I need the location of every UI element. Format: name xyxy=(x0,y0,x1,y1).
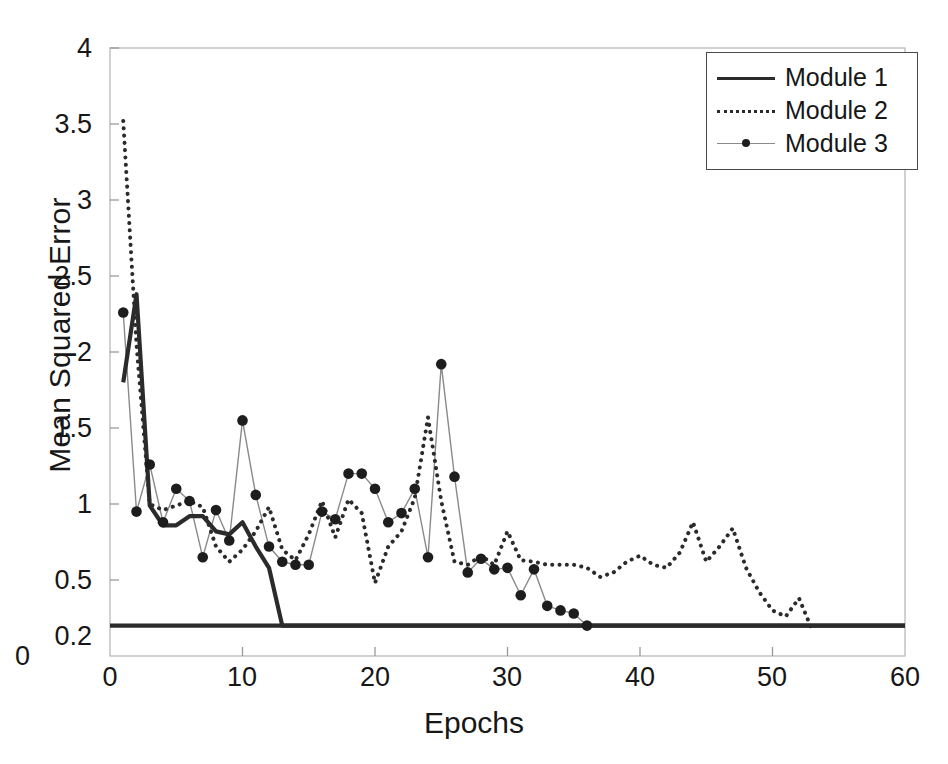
legend-label-module-1: Module 1 xyxy=(785,65,888,90)
chart-figure: Mean Squared Error 0 0.2 0.5 1 1.5 2 2.5… xyxy=(0,0,948,764)
legend-swatch-solid-icon xyxy=(715,70,777,86)
series-module-3-markers xyxy=(118,307,592,631)
legend-label-module-3: Module 3 xyxy=(785,131,888,156)
series-module-3-line xyxy=(123,312,587,625)
series-module-1 xyxy=(123,294,905,625)
legend-item-module-2[interactable]: Module 2 xyxy=(715,94,907,127)
legend-item-module-3[interactable]: Module 3 xyxy=(715,127,907,160)
legend-item-module-1[interactable]: Module 1 xyxy=(715,61,907,94)
legend-swatch-dotted-icon xyxy=(715,103,777,119)
tick-marks xyxy=(110,48,773,656)
legend-label-module-2: Module 2 xyxy=(785,98,888,123)
series-module-2 xyxy=(123,121,812,630)
legend: Module 1 Module 2 Module 3 xyxy=(706,52,918,170)
legend-swatch-marker-icon xyxy=(715,136,777,152)
